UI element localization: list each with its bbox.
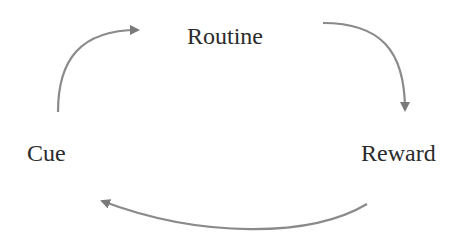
habit-loop-diagram: Routine Cue Reward [0, 0, 469, 250]
arrow-reward-to-cue [102, 201, 367, 229]
node-cue-label: Cue [27, 141, 66, 165]
node-routine-label: Routine [187, 24, 263, 48]
arrow-cue-to-routine [58, 30, 138, 112]
node-reward-label: Reward [361, 141, 436, 165]
arrow-routine-to-reward [323, 23, 405, 110]
